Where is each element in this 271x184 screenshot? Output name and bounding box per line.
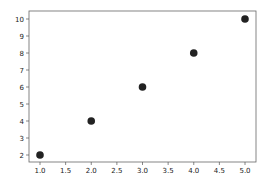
- x-tick-label: 5.0: [239, 167, 250, 175]
- x-tick-label: 4.0: [188, 167, 199, 175]
- y-tick-label: 2: [20, 152, 24, 160]
- x-tick-label: 3.5: [163, 167, 174, 175]
- y-tick-label: 10: [15, 16, 24, 24]
- x-tick-label: 1.5: [60, 167, 71, 175]
- x-tick-label: 2.0: [86, 167, 97, 175]
- y-tick-label: 6: [20, 84, 25, 92]
- data-point: [87, 117, 95, 125]
- y-tick-label: 9: [20, 33, 24, 41]
- x-tick-label: 3.0: [137, 167, 148, 175]
- y-tick-label: 4: [20, 118, 25, 126]
- x-tick-label: 4.5: [214, 167, 225, 175]
- y-tick-label: 8: [20, 50, 24, 58]
- data-point: [139, 83, 147, 91]
- x-tick-label: 1.0: [34, 167, 45, 175]
- data-point: [241, 15, 249, 23]
- y-tick-label: 5: [20, 101, 24, 109]
- data-point: [36, 151, 44, 159]
- data-point: [190, 49, 198, 57]
- x-tick-label: 2.5: [111, 167, 122, 175]
- y-tick-label: 7: [20, 67, 24, 75]
- x-axis: 1.01.52.02.53.03.54.04.55.0: [34, 162, 250, 175]
- y-tick-label: 3: [20, 135, 24, 143]
- y-axis: 2345678910: [15, 16, 29, 160]
- scatter-chart: 1.01.52.02.53.03.54.04.55.0 2345678910: [0, 0, 271, 184]
